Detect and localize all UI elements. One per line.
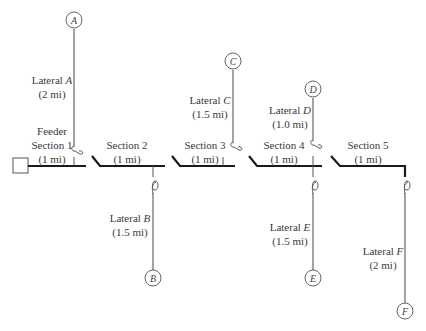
fuse-icon: [404, 181, 410, 194]
lateral-e-label: Lateral E (1.5 mi): [260, 220, 320, 248]
lateral-d-prefix: Lateral: [269, 104, 303, 116]
lateral-a-label: Lateral A (2 mi): [22, 73, 82, 101]
section-3-length: (1 mi): [191, 153, 218, 165]
node-d-letter: D: [308, 84, 317, 95]
node-f-letter: F: [401, 306, 409, 317]
lateral-d-letter: D: [303, 104, 311, 116]
section-2-name: Section 2: [106, 139, 147, 151]
section-1-label: Feeder Section 1 (1 mi): [22, 124, 82, 166]
section-4-label: Section 4 (1 mi): [254, 138, 314, 166]
section-4-length: (1 mi): [270, 153, 297, 165]
node-a-letter: A: [70, 15, 78, 26]
lateral-f-label: Lateral F (2 mi): [353, 244, 413, 272]
lateral-b-length: (1.5 mi): [112, 226, 147, 238]
section-5-length: (1 mi): [354, 153, 381, 165]
fuse-icon: [152, 181, 158, 194]
lateral-e-length: (1.5 mi): [272, 235, 307, 247]
section-1-length: (1 mi): [38, 153, 65, 165]
node-b-letter: B: [150, 273, 156, 284]
fuse-icon: [312, 181, 318, 194]
lateral-d-label: Lateral D (1.0 mi): [260, 103, 320, 131]
lateral-a-letter: A: [66, 74, 73, 86]
lateral-e-prefix: Lateral: [270, 221, 304, 233]
node-e-letter: E: [309, 273, 316, 284]
lateral-b-label: Lateral B (1.5 mi): [100, 211, 160, 239]
lateral-c-label: Lateral C (1.5 mi): [180, 93, 240, 121]
lateral-e-letter: E: [304, 221, 311, 233]
lateral-d-length: (1.0 mi): [272, 118, 307, 130]
lateral-b-letter: B: [144, 212, 151, 224]
lateral-f-letter: F: [397, 245, 404, 257]
lateral-b-prefix: Lateral: [110, 212, 144, 224]
lateral-a-prefix: Lateral: [32, 74, 66, 86]
lateral-a-length: (2 mi): [38, 88, 65, 100]
section-5-name: Section 5: [347, 139, 388, 151]
section-3-name: Section 3: [184, 139, 225, 151]
section-2-label: Section 2 (1 mi): [97, 138, 157, 166]
lateral-c-length: (1.5 mi): [192, 108, 227, 120]
lateral-c-prefix: Lateral: [189, 94, 223, 106]
lateral-c-letter: C: [223, 94, 230, 106]
section-2-length: (1 mi): [113, 153, 140, 165]
section-4-name: Section 4: [263, 139, 304, 151]
lateral-f-prefix: Lateral: [363, 245, 397, 257]
section-1-feeder-text: Feeder: [37, 125, 67, 137]
lateral-f-length: (2 mi): [369, 259, 396, 271]
section-5-label: Section 5 (1 mi): [338, 138, 398, 166]
section-3-label: Section 3 (1 mi): [175, 138, 235, 166]
section-1-name: Section 1: [31, 139, 72, 151]
node-c-letter: C: [230, 56, 237, 67]
